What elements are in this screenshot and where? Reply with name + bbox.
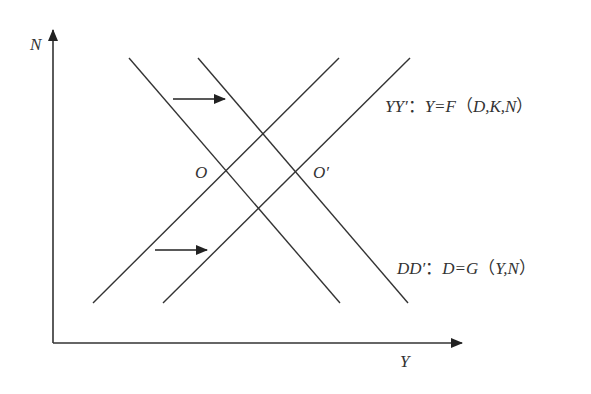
- dd-equation-args: Y,N: [495, 259, 518, 278]
- dd-paren-open: （: [478, 259, 495, 278]
- yy-paren-close: ）: [516, 97, 533, 116]
- dd-curve-name: DD′: [397, 259, 425, 278]
- dd-separator: ：: [425, 259, 442, 278]
- yy-curve-name: YY′: [385, 97, 408, 116]
- x-axis-label: Y: [400, 353, 409, 370]
- dd-curve-initial: [129, 58, 340, 303]
- dd-paren-close: ）: [519, 259, 536, 278]
- y-axis-label: N: [30, 36, 41, 53]
- dd-equation-lhs: D=G: [442, 259, 478, 278]
- yy-paren-open: （: [456, 97, 473, 116]
- diagram-canvas: [0, 0, 591, 394]
- yy-equation-args: D,K,N: [473, 97, 516, 116]
- yy-curve-label: YY′：Y=F（D,K,N）: [385, 98, 533, 115]
- point-o-label: O: [195, 164, 207, 181]
- dd-curve-label: DD′：D=G（Y,N）: [397, 260, 536, 277]
- yy-separator: ：: [408, 97, 425, 116]
- yy-equation-lhs: Y=F: [425, 97, 456, 116]
- point-o-prime-label: O′: [313, 164, 329, 181]
